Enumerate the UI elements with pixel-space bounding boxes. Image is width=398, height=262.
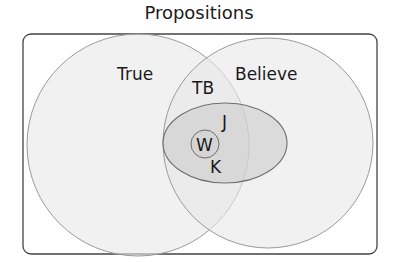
venn-diagram: True Believe TB J W K [0,0,398,262]
label-k: K [210,157,222,177]
label-believe: Believe [235,64,298,84]
label-j: J [221,112,227,132]
label-true: True [116,64,153,84]
label-w: W [196,135,213,155]
label-tb: TB [191,78,214,98]
